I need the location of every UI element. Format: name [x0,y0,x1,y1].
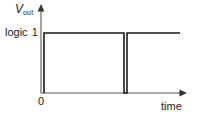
logic-level-label: logic1 [5,27,38,38]
waveform-trace [44,33,180,93]
x-axis [41,90,187,97]
waveform-svg [0,0,199,114]
logic-level-value: 1 [32,26,38,38]
origin-label: 0 [38,96,44,107]
y-axis-subscript: out [23,9,33,16]
logic-level-text: logic [5,26,28,38]
y-axis-symbol: V [15,2,23,16]
waveform-figure: Vout logic1 0 time [0,0,199,114]
x-axis-arrowhead-icon [180,90,188,97]
x-axis-label: time [161,101,182,112]
y-axis-arrowhead-icon [38,4,45,12]
y-axis-label: Vout [15,3,33,15]
